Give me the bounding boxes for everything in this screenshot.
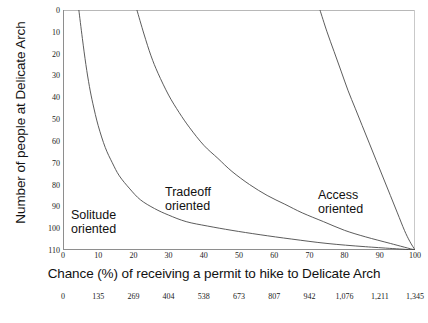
x-tick-label: 20 — [113, 251, 153, 260]
y-tick-label: 60 — [30, 136, 60, 145]
y-axis-title: Number of people at Delicate Arch — [13, 2, 28, 244]
series-annotation-line: oriented — [318, 202, 363, 216]
plot-area: Solitudeoriented Tradeofforiented Access… — [63, 10, 415, 250]
x-tick-label: 90 — [360, 251, 400, 260]
secondary-x-tick-label: 1,345 — [393, 292, 428, 301]
series-annotation-line: oriented — [165, 199, 211, 213]
x-tick-label: 80 — [325, 251, 365, 260]
y-tick-label: 100 — [30, 224, 60, 233]
chart-figure: Number of people at Delicate Arch 010203… — [0, 0, 428, 323]
series-annotation-tradeoff: Tradeofforiented — [165, 185, 211, 213]
x-tick-label: 10 — [78, 251, 118, 260]
series-annotation-line: Access — [318, 188, 363, 202]
series-annotation-line: oriented — [71, 222, 116, 236]
figure-caption-clipped — [63, 314, 423, 323]
y-tick-label: 70 — [30, 158, 60, 167]
x-tick-label: 100 — [395, 251, 428, 260]
x-axis-tick-labels: 0102030405060708090100 — [63, 251, 415, 263]
y-tick-label: 20 — [30, 49, 60, 58]
x-tick-label: 40 — [184, 251, 224, 260]
y-tick-label: 80 — [30, 180, 60, 189]
x-tick-label: 0 — [43, 251, 83, 260]
y-tick-label: 50 — [30, 115, 60, 124]
series-annotation-line: Solitude — [71, 208, 116, 222]
y-tick-label: 40 — [30, 93, 60, 102]
y-tick-label: 30 — [30, 71, 60, 80]
y-tick-label: 10 — [30, 27, 60, 36]
series-annotation-access: Accessoriented — [318, 188, 363, 216]
y-tick-label: 0 — [30, 6, 60, 15]
secondary-x-axis-tick-labels: 01352694045386738079421,0761,2111,345 — [63, 292, 415, 304]
x-tick-label: 50 — [219, 251, 259, 260]
series-line — [79, 10, 415, 250]
series-annotation-line: Tradeoff — [165, 185, 211, 199]
y-tick-label: 90 — [30, 202, 60, 211]
y-axis-tick-labels: 0102030405060708090100110 — [30, 0, 60, 255]
x-tick-label: 30 — [149, 251, 189, 260]
series-line — [137, 10, 415, 250]
series-annotation-solitude: Solitudeoriented — [71, 208, 116, 236]
x-tick-label: 60 — [254, 251, 294, 260]
x-axis-title: Chance (%) of receiving a permit to hike… — [0, 266, 428, 281]
x-tick-label: 70 — [289, 251, 329, 260]
